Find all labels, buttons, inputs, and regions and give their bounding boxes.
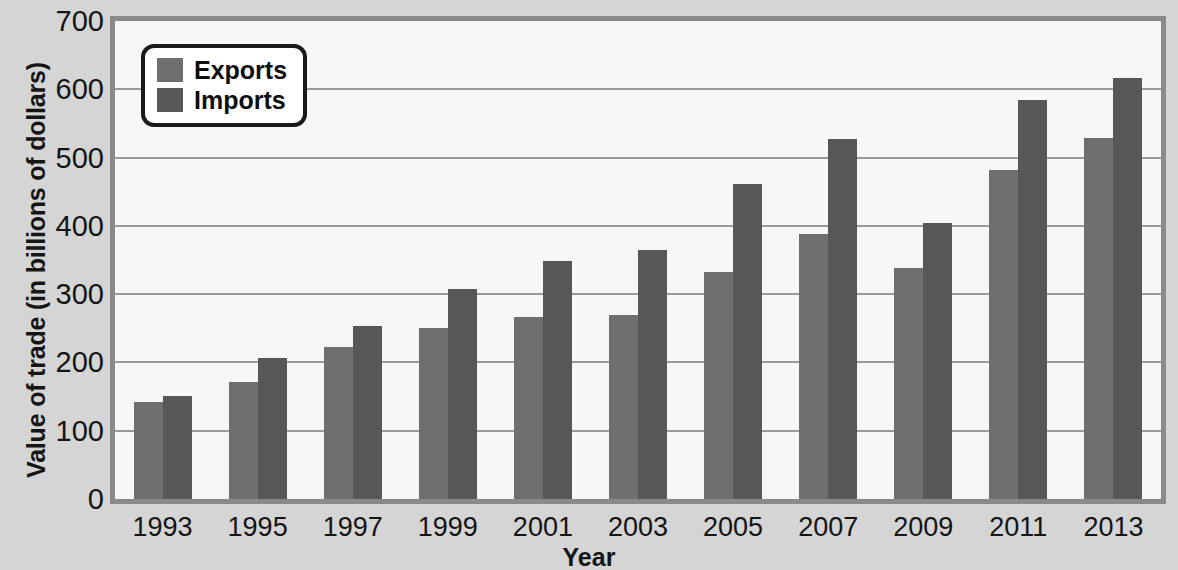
bar-group xyxy=(989,21,1047,499)
bar-imports-2011 xyxy=(1018,100,1047,499)
x-axis-tick-label: 1999 xyxy=(398,509,498,545)
bar-imports-1997 xyxy=(353,326,382,499)
x-axis-tick-label: 2011 xyxy=(968,509,1068,545)
x-axis-tick-label: 2009 xyxy=(873,509,973,545)
x-axis-tick-label: 2001 xyxy=(493,509,593,545)
bar-exports-2013 xyxy=(1084,138,1113,499)
bar-exports-2011 xyxy=(989,170,1018,499)
y-axis-tick-label: 700 xyxy=(28,6,104,36)
y-axis-tick-label: 200 xyxy=(28,347,104,377)
x-axis-tick-label: 2003 xyxy=(588,509,688,545)
bar-group xyxy=(1084,21,1142,499)
y-axis-tick-label: 500 xyxy=(28,143,104,173)
y-axis-tick-label: 100 xyxy=(28,416,104,446)
bar-imports-2009 xyxy=(923,223,952,499)
legend-label-imports: Imports xyxy=(194,87,286,113)
bar-group xyxy=(324,21,382,499)
y-axis-tick-label: 0 xyxy=(28,484,104,514)
bar-imports-2001 xyxy=(543,261,572,499)
legend-item-imports: Imports xyxy=(157,85,287,115)
x-axis-tick-label: 1993 xyxy=(113,509,213,545)
bar-imports-1999 xyxy=(448,289,477,499)
bar-imports-2007 xyxy=(828,139,857,499)
bar-imports-1995 xyxy=(258,358,287,499)
bar-group xyxy=(894,21,952,499)
bar-imports-1993 xyxy=(163,396,192,499)
bar-group xyxy=(799,21,857,499)
bar-exports-2009 xyxy=(894,268,923,499)
y-axis-tick-label: 400 xyxy=(28,211,104,241)
y-axis-tick-label: 300 xyxy=(28,279,104,309)
legend-item-exports: Exports xyxy=(157,55,287,85)
bar-group xyxy=(514,21,572,499)
bar-exports-2005 xyxy=(704,272,733,499)
legend-label-exports: Exports xyxy=(194,57,287,83)
x-axis-tick-label: 2005 xyxy=(683,509,783,545)
x-axis-title: Year xyxy=(0,543,1178,570)
bar-group xyxy=(704,21,762,499)
bar-exports-1995 xyxy=(229,382,258,499)
bar-exports-2007 xyxy=(799,234,828,499)
bar-exports-1999 xyxy=(419,328,448,499)
bar-imports-2003 xyxy=(638,250,667,499)
x-axis-tick-label: 1997 xyxy=(303,509,403,545)
chart-legend: Exports Imports xyxy=(141,44,307,127)
bar-exports-2003 xyxy=(609,315,638,499)
bar-exports-1997 xyxy=(324,347,353,499)
x-axis-tick-label: 1995 xyxy=(208,509,308,545)
bar-imports-2013 xyxy=(1113,78,1142,499)
y-axis-tick-labels: 0100200300400500600700 xyxy=(28,0,104,570)
bar-exports-2001 xyxy=(514,317,543,499)
y-axis-tick-label: 600 xyxy=(28,74,104,104)
legend-swatch-exports-icon xyxy=(157,58,183,82)
bar-group xyxy=(419,21,477,499)
bar-exports-1993 xyxy=(134,402,163,499)
bar-group xyxy=(609,21,667,499)
bar-imports-2005 xyxy=(733,184,762,499)
legend-swatch-imports-icon xyxy=(157,88,183,112)
x-axis-tick-label: 2013 xyxy=(1063,509,1163,545)
bar-chart-figure: Value of trade (in billions of dollars) … xyxy=(0,0,1178,570)
x-axis-tick-label: 2007 xyxy=(778,509,878,545)
